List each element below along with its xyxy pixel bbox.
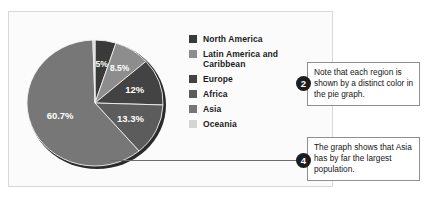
chart-legend: North AmericaLatin America andCaribbeanE… [189, 34, 301, 134]
callout-box-4: The graph shows that Asia has by far the… [307, 137, 420, 181]
legend-swatch-icon [189, 105, 197, 113]
legend-item[interactable]: Europe [189, 74, 301, 84]
legend-swatch-icon [189, 90, 197, 98]
legend-item-label: North America [203, 34, 263, 44]
legend-item-label: Latin America andCaribbean [203, 49, 278, 69]
callout-leader-line [110, 160, 302, 161]
pie-slice-label: 8.5% [110, 63, 130, 73]
legend-swatch-icon [189, 75, 197, 83]
legend-swatch-icon [189, 120, 197, 128]
callout-box-2: Note that each region is shown by a dist… [307, 62, 420, 106]
legend-item-label: Asia [203, 104, 221, 114]
legend-item-label: Europe [203, 74, 233, 84]
legend-item-label: Africa [203, 89, 228, 99]
legend-item[interactable]: Latin America andCaribbean [189, 49, 301, 69]
pie-slice-label: 60.7% [47, 110, 74, 121]
legend-swatch-icon [189, 50, 197, 58]
pie-chart: 5%8.5%12%13.3%60.7%0.5% [19, 26, 159, 158]
pie-slice-label: 5% [95, 59, 108, 69]
legend-item[interactable]: Africa [189, 89, 301, 99]
callout-2-text: Note that each region is shown by a dist… [314, 67, 414, 101]
legend-item-label: Oceania [203, 119, 237, 129]
pie-slice-label: 13.3% [117, 113, 144, 124]
callout-badge-4[interactable]: 4 [296, 153, 311, 168]
legend-item[interactable]: North America [189, 34, 301, 44]
legend-item[interactable]: Asia [189, 104, 301, 114]
legend-swatch-icon [189, 35, 197, 43]
callout-badge-2[interactable]: 2 [296, 76, 311, 91]
pie-chart-svg: 5%8.5%12%13.3%60.7%0.5% [19, 26, 169, 171]
legend-item[interactable]: Oceania [189, 119, 301, 129]
callout-4-text: The graph shows that Asia has by far the… [314, 142, 414, 176]
pie-slice-label: 12% [125, 84, 145, 95]
